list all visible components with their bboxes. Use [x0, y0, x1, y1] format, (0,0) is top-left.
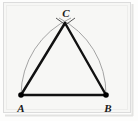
vertex-label-A: A [16, 102, 24, 114]
vertex-dot-B [103, 92, 109, 98]
vertex-dot-A [18, 92, 24, 98]
vertex-label-C: C [62, 7, 70, 19]
vertex-label-B: B [103, 102, 111, 114]
construction-diagram: C A B [0, 0, 138, 121]
geometry-figure: C A B [0, 0, 138, 121]
